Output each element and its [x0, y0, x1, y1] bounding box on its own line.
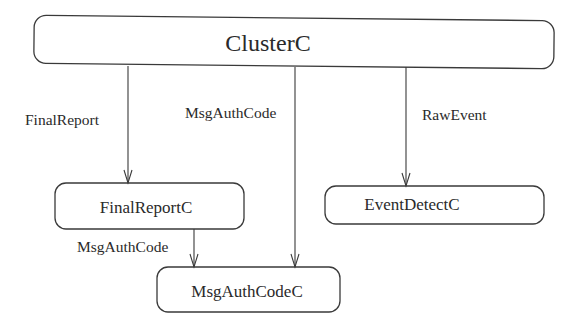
edge-label-rawevent: RawEvent: [422, 107, 487, 123]
node-label-clusterc: ClusterC: [225, 31, 310, 55]
component-diagram: ClusterC FinalReportC EventDetectC MsgAu…: [0, 0, 577, 332]
edge-label-msgauthcode-bottom: MsgAuthCode: [77, 239, 168, 255]
node-label-finalreportc: FinalReportC: [100, 199, 193, 216]
node-label-eventdetectc: EventDetectC: [364, 196, 459, 213]
edge-label-finalreport: FinalReport: [25, 112, 99, 128]
edge-label-msgauthcode-top: MsgAuthCode: [185, 105, 276, 121]
node-label-msgauthcodec: MsgAuthCodeC: [191, 283, 302, 300]
